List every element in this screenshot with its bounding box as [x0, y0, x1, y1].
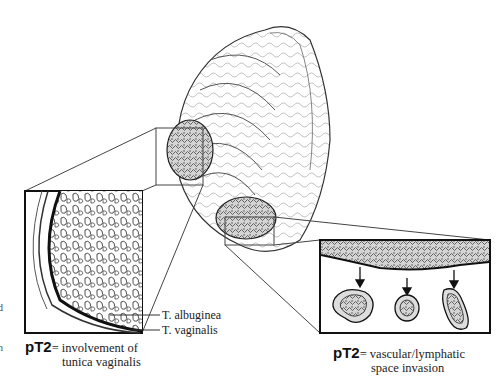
caption-left-line1: = involvement of — [52, 341, 138, 355]
inset-vascular-invasion — [320, 240, 490, 333]
caption-right: pT2= vascular/lymphatic space invasion — [333, 346, 465, 375]
caption-left-line2: tunica vaginalis — [62, 355, 141, 369]
label-tunica-vaginalis: T. vaginalis — [162, 324, 218, 337]
testis-illustration — [0, 0, 501, 386]
edge-fragment-2: n — [0, 342, 3, 353]
caption-right-stage: pT2 — [333, 344, 360, 361]
edge-fragment-1: d — [0, 302, 3, 313]
caption-left: pT2= involvement of tunica vaginalis — [25, 340, 141, 369]
caption-right-line1: = vascular/lymphatic — [360, 347, 465, 361]
caption-right-line2: space invasion — [371, 361, 444, 375]
label-tunica-albuginea: T. albuginea — [162, 309, 221, 322]
tumor-upper — [167, 120, 213, 180]
caption-left-stage: pT2 — [25, 338, 52, 355]
inset-tunica-vaginalis — [25, 191, 142, 333]
